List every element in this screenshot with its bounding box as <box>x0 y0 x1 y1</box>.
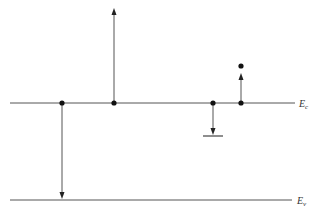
conduction-band-label: Ec <box>298 98 309 111</box>
transition-band-to-band <box>59 100 64 199</box>
arrow-up-icon <box>239 73 244 80</box>
arrow-down-icon <box>211 128 216 135</box>
transition-trap-capture <box>203 100 223 136</box>
transition-trap-emission <box>238 63 243 105</box>
electron-dot <box>210 100 215 105</box>
transition-excitation-up <box>111 8 116 106</box>
energy-band-diagram: Ec Ev <box>0 0 317 213</box>
electron-dot <box>111 100 116 105</box>
electron-dot <box>59 100 64 105</box>
arrow-up-icon <box>112 8 117 15</box>
electron-dot <box>238 100 243 105</box>
valence-band-label: Ev <box>296 195 307 208</box>
arrow-down-icon <box>60 192 65 199</box>
excited-electron-dot <box>238 63 243 68</box>
